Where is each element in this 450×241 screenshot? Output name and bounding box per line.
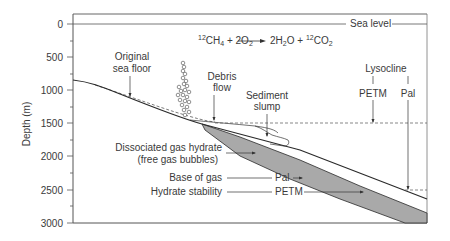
lysocline-pal-label: Pal <box>401 88 415 99</box>
tick-0: 0 <box>57 19 63 30</box>
base-of-gas-label: Base of gas <box>169 172 222 183</box>
lysocline-petm-label: PETM <box>359 88 387 99</box>
original-sea-floor-line <box>95 85 215 122</box>
debris-flow-label-2: flow <box>213 82 232 93</box>
sediment-slump-label-1: Sediment <box>246 90 288 101</box>
debris-flow-label-1: Debris <box>208 71 237 82</box>
original-sea-floor-label-1: Original <box>115 51 149 62</box>
hydrate-stability-zone <box>202 124 427 223</box>
gas-hydrate-cross-section: 0 500 1000 1500 2000 2500 3000 Depth (m)… <box>0 0 450 241</box>
arrowhead-icon <box>372 119 375 123</box>
reaction-arrowhead-icon <box>260 39 266 43</box>
sea-level: Sea level <box>73 18 427 29</box>
base-of-gas-pal-label: Pal <box>275 172 289 183</box>
gas-bubbles <box>176 61 191 117</box>
tick-1000: 1000 <box>41 85 64 96</box>
dissociated-gas-hydrate-label-2: (free gas bubbles) <box>137 154 218 165</box>
original-sea-floor-label-2: sea floor <box>113 63 152 74</box>
tick-3000: 3000 <box>41 218 64 229</box>
methane-oxidation-equation: 12CH4 + 2O2 <box>198 34 253 47</box>
arrowhead-icon <box>407 186 410 190</box>
tick-2500: 2500 <box>41 185 64 196</box>
hydrate-stability-label: Hydrate stability <box>151 186 222 197</box>
y-axis <box>67 24 73 223</box>
y-axis-tick-labels: 0 500 1000 1500 2000 2500 3000 <box>41 19 64 229</box>
tick-1500: 1500 <box>41 118 64 129</box>
equation-products: 2H2O + 12CO2 <box>270 34 333 47</box>
arrowhead-icon <box>266 133 269 137</box>
tick-2000: 2000 <box>41 151 64 162</box>
y-axis-label: Depth (m) <box>21 102 32 146</box>
dissociated-gas-hydrate-label-1: Dissociated gas hydrate <box>115 142 222 153</box>
hydrate-stability-petm-label: PETM <box>275 186 303 197</box>
arrowhead-icon <box>213 117 216 121</box>
sediment-slump-label-2: slump <box>254 101 281 112</box>
tick-500: 500 <box>46 52 63 63</box>
lysocline-label: Lysocline <box>365 63 407 74</box>
sea-level-label: Sea level <box>350 18 391 29</box>
